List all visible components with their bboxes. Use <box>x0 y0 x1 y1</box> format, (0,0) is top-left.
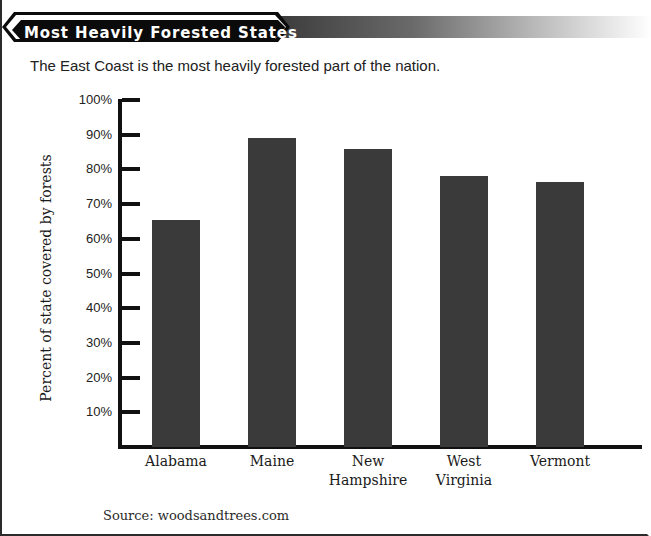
y-axis-tick <box>122 202 140 206</box>
x-axis-category-label-line: Vermont <box>500 452 620 471</box>
y-axis-tick <box>122 341 140 345</box>
y-axis-tick-label: 40% <box>58 301 112 314</box>
y-axis-tick <box>122 167 140 171</box>
y-axis-tick <box>122 98 140 102</box>
y-axis-tick <box>122 306 140 310</box>
bar-chart: 100%90%80%70%60%50%40%30%20%10% Percent … <box>2 0 651 536</box>
y-axis-tick <box>122 272 140 276</box>
y-axis-tick-label: 70% <box>58 197 112 210</box>
bar <box>440 176 488 447</box>
bar <box>344 149 392 447</box>
x-axis-category-label-line: Virginia <box>404 471 524 490</box>
y-axis-tick-label: 10% <box>58 405 112 418</box>
x-axis-category-label: Vermont <box>500 452 620 471</box>
y-axis-tick-label: 20% <box>58 371 112 384</box>
y-axis-tick-label: 30% <box>58 336 112 349</box>
bar <box>536 182 584 447</box>
bar <box>152 220 200 447</box>
y-axis-tick-label: 100% <box>58 93 112 106</box>
y-axis-tick-label: 60% <box>58 232 112 245</box>
y-axis-tick <box>122 133 140 137</box>
y-axis-tick <box>122 376 140 380</box>
y-axis-tick-label: 50% <box>58 267 112 280</box>
y-axis-tick-label: 80% <box>58 162 112 175</box>
y-axis-tick-label: 90% <box>58 128 112 141</box>
y-axis-tick <box>122 410 140 414</box>
y-axis-title: Percent of state covered by forests <box>38 128 54 428</box>
y-axis-tick-labels: 100%90%80%70%60%50%40%30%20%10% <box>54 0 112 536</box>
source-note: Source: woodsandtrees.com <box>103 508 289 523</box>
y-axis-tick <box>122 237 140 241</box>
bar <box>248 138 296 447</box>
